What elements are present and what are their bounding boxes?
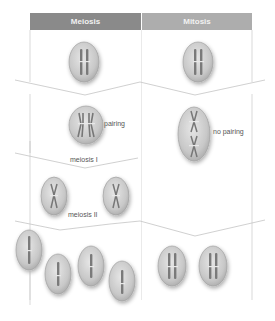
cell-mitosis-final-2 — [199, 246, 227, 286]
cell-meiosis-final-2 — [45, 254, 71, 294]
mitosis-header: Mitosis — [142, 13, 252, 30]
cell-mitosis-parent — [183, 42, 213, 82]
cell-mitosis-final-1 — [158, 246, 186, 286]
arrow-band-1 — [15, 80, 265, 95]
cell-meiosis-final-4 — [109, 261, 135, 301]
diagram-graphics — [0, 0, 275, 321]
cell-meiosis-pairing — [69, 106, 103, 144]
meiosis-mitosis-diagram: Meiosis Mitosis pairing no pairing meios… — [0, 0, 275, 321]
cell-meiosis-parent — [69, 42, 99, 82]
no-pairing-label: no pairing — [213, 128, 244, 135]
cell-meiosis-1-daughter-b — [103, 177, 129, 215]
cell-meiosis-1-daughter-a — [41, 177, 67, 215]
arrow-band-meiosis-2 — [15, 220, 265, 236]
meiosis-header: Meiosis — [30, 13, 141, 30]
pairing-label: pairing — [104, 120, 125, 127]
arrow-band-meiosis-1 — [15, 141, 138, 168]
meiosis-2-label: meiosis II — [68, 211, 98, 218]
cell-mitosis-no-pairing — [178, 107, 210, 161]
cell-meiosis-final-1 — [16, 230, 42, 270]
meiosis-1-label: meiosis I — [70, 156, 98, 163]
cell-meiosis-final-3 — [78, 246, 104, 286]
